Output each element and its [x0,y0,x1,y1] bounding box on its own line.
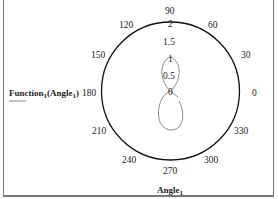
angle-label-30: 30 [241,50,251,60]
angle-label-270: 270 [163,166,177,176]
radial-label-0: 0 [168,87,173,97]
angle-label-60: 60 [208,20,218,30]
radial-label-0-5: 0.5 [163,71,175,81]
angle-label-180: 180 [82,88,96,98]
radial-label-2: 2 [168,19,173,29]
angle-label-0: 0 [252,88,257,98]
x-axis-label: Angle1 [157,185,183,198]
angle-label-300: 300 [204,155,218,165]
angle-label-150: 150 [91,50,105,60]
angle-label-210: 210 [92,126,106,136]
angle-label-240: 240 [122,155,136,165]
angle-label-120: 120 [119,20,133,30]
radial-label-1: 1 [168,54,173,64]
radial-label-1-5: 1.5 [163,37,175,47]
angle-label-90: 90 [165,6,175,16]
angle-label-330: 330 [234,126,248,136]
legend-label: Function1(Angle1) [9,88,79,101]
